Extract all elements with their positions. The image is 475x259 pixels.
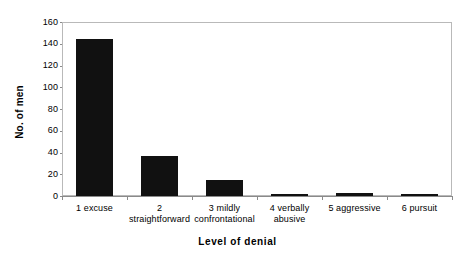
y-axis-title: No. of men [13, 72, 27, 152]
bar [141, 156, 178, 196]
y-axis-tick-label: 100 [30, 83, 58, 92]
x-axis-tick-mark [322, 196, 323, 200]
x-axis-category-label: 6 pursuit [384, 203, 456, 214]
y-axis-tick-labels: 020406080100120140160 [30, 0, 58, 259]
x-axis-category-label-line: abusive [254, 214, 326, 225]
y-axis-tick-label: 0 [30, 192, 58, 201]
bars-layer [62, 22, 452, 196]
x-axis-category-label: 3 mildlyconfrontational [189, 203, 261, 225]
x-axis-tick-mark [192, 196, 193, 200]
x-axis-tick-mark [62, 196, 63, 200]
x-axis-tick-mark [127, 196, 128, 200]
bar [76, 39, 113, 196]
x-axis-title: Level of denial [0, 236, 475, 247]
y-axis-tick-label: 80 [30, 105, 58, 114]
x-axis-tick-mark [387, 196, 388, 200]
x-axis-category-label-line: 2 [124, 203, 196, 214]
x-axis-category-label-line: 5 aggressive [319, 203, 391, 214]
x-axis-category-label-line: 4 verbally [254, 203, 326, 214]
x-axis-category-label-line: 3 mildly [189, 203, 261, 214]
x-axis-category-label-line: 6 pursuit [384, 203, 456, 214]
y-axis-tick-label: 120 [30, 61, 58, 70]
y-axis-tick-label: 20 [30, 170, 58, 179]
x-axis-category-label-line: 1 excuse [59, 203, 131, 214]
y-axis-tick-label: 160 [30, 18, 58, 27]
x-axis-tick-mark [452, 196, 453, 200]
y-axis-tick-label: 140 [30, 39, 58, 48]
x-axis-category-label: 4 verballyabusive [254, 203, 326, 225]
x-axis-category-label: 1 excuse [59, 203, 131, 214]
x-axis-tick-mark [257, 196, 258, 200]
bar-chart: No. of men 020406080100120140160 1 excus… [0, 0, 475, 259]
y-axis-tick-label: 40 [30, 148, 58, 157]
x-axis-category-label-line: straightforward [124, 214, 196, 225]
x-axis-category-label: 5 aggressive [319, 203, 391, 214]
y-axis-tick-label: 60 [30, 126, 58, 135]
x-axis-category-label-line: confrontational [189, 214, 261, 225]
x-axis-category-labels: 1 excuse2straightforward3 mildlyconfront… [62, 203, 452, 235]
bar [206, 180, 243, 196]
x-axis-category-label: 2straightforward [124, 203, 196, 225]
